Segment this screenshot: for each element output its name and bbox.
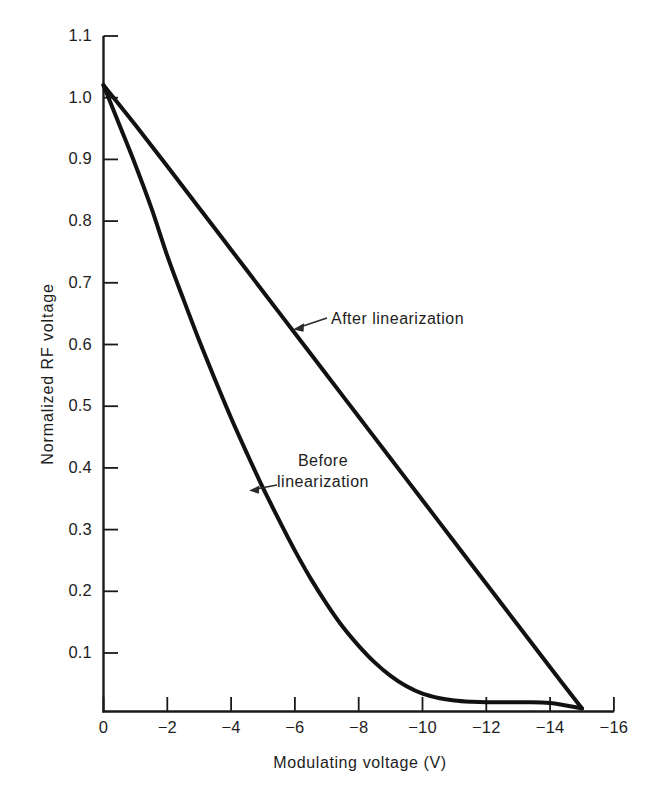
y-tick-label: 0.2: [46, 581, 92, 600]
x-tick-label: −8: [336, 718, 382, 737]
x-tick-label: −4: [208, 718, 254, 737]
x-tick-label: −6: [272, 718, 318, 737]
y-axis-ticks: [104, 36, 119, 653]
y-axis-title: Normalized RF voltage: [39, 264, 57, 484]
annotation-after-linearization: After linearization: [331, 310, 464, 328]
y-tick-label: 1.1: [46, 26, 92, 45]
x-tick-label: −16: [591, 718, 637, 737]
series-after-linearization: [104, 85, 583, 708]
x-tick-label: 0: [81, 718, 127, 737]
after-linearization-arrow: [293, 318, 327, 332]
x-axis-title: Modulating voltage (V): [235, 754, 485, 772]
x-tick-label: −10: [400, 718, 446, 737]
y-tick-label: 0.8: [46, 211, 92, 230]
x-tick-label: −14: [527, 718, 573, 737]
y-tick-label: 0.9: [46, 149, 92, 168]
x-tick-label: −2: [144, 718, 190, 737]
y-tick-label: 0.1: [46, 643, 92, 662]
annotation-before-line1: Before: [258, 450, 388, 471]
y-tick-label: 1.0: [46, 88, 92, 107]
x-tick-label: −12: [463, 718, 509, 737]
y-tick-label: 0.3: [46, 520, 92, 539]
annotation-before-line2: linearization: [258, 471, 388, 492]
chart-figure: 1.1 1.0 0.9 0.8 0.7 0.6 0.5 0.4 0.3 0.2 …: [0, 0, 655, 794]
annotation-before-linearization: Before linearization: [258, 450, 388, 492]
plot-canvas: [0, 0, 655, 794]
